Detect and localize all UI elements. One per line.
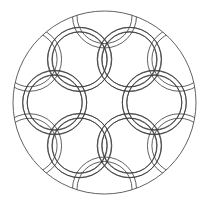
mandala-canvas bbox=[0, 0, 206, 209]
mandala-drawing bbox=[0, 0, 206, 209]
background bbox=[0, 0, 206, 209]
